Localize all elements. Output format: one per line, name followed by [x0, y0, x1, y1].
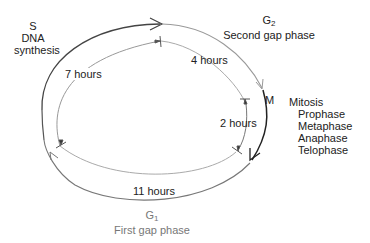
label-m-name: Mitosis — [289, 96, 323, 108]
subphase-anaphase: Anaphase — [298, 132, 352, 144]
mitosis-subphases: Prophase Metaphase Anaphase Telophase — [298, 108, 352, 156]
subphase-prophase: Prophase — [298, 108, 352, 120]
g1-name: First gap phase — [112, 224, 192, 236]
g1-letter: G1 — [112, 209, 192, 225]
label-g1-phase: G1 First gap phase — [112, 209, 192, 236]
duration-g1: 11 hours — [131, 185, 177, 197]
outer-arrow-g1-to-s — [50, 152, 58, 160]
s-name2: synthesis — [14, 44, 52, 56]
tick-s-g2 — [155, 36, 161, 47]
inner-arc-g1 — [60, 146, 236, 174]
label-m-letter: M — [265, 94, 274, 106]
duration-g2: 4 hours — [191, 54, 228, 66]
outer-arc-s — [42, 24, 160, 110]
s-letter: S — [14, 20, 52, 32]
duration-s: 7 hours — [65, 68, 102, 80]
label-g2-phase: G2 Second gap phase — [216, 14, 322, 41]
subphase-metaphase: Metaphase — [298, 120, 352, 132]
g2-subscript: 2 — [271, 19, 275, 28]
subphase-telophase: Telophase — [298, 144, 352, 156]
g2-letter: G2 — [216, 14, 322, 30]
s-name: DNA — [14, 32, 52, 44]
inner-arc-s — [57, 41, 160, 146]
g1-subscript: 1 — [154, 214, 158, 223]
label-s-phase: S DNA synthesis — [14, 20, 52, 56]
tick-m-g1 — [232, 146, 242, 154]
tick-g2-m — [240, 99, 250, 104]
g2-name: Second gap phase — [216, 29, 322, 41]
duration-m: 2 hours — [220, 117, 257, 129]
